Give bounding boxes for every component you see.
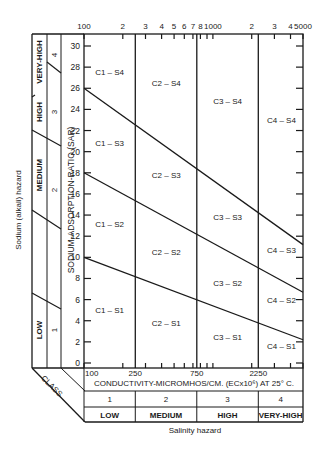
zone-label: C4 – S1 (267, 342, 296, 351)
bottom-tick-label: 250 (129, 369, 143, 378)
top-tick-label: 3 (272, 22, 277, 31)
bottom-tick-label: 100 (85, 369, 99, 378)
zone-labels: C1 – S4C1 – S3C1 – S2C1 – S1C2 – S4C2 – … (95, 68, 296, 351)
left-slant-class4 (47, 62, 61, 73)
zone-label: C3 – S1 (213, 333, 242, 342)
sar-tick-label: 6 (75, 295, 80, 305)
sar-tick-label: 4 (75, 316, 80, 326)
salinity-class-number: 4 (278, 395, 283, 404)
sar-tick-label: 24 (71, 104, 81, 114)
sar-tick-label: 30 (71, 41, 81, 51)
salinity-class-number: 1 (107, 395, 112, 404)
zone-label: C4 – S2 (267, 296, 296, 305)
sar-axis-title: SODIUM-ADSORPTION-RATIO (SAR) (66, 126, 76, 273)
zone-label: C1 – S3 (95, 139, 124, 148)
sodium-boundary-line (84, 173, 303, 292)
sodium-hazard-title: Sodium (alkali) hazard (14, 170, 23, 250)
sar-tick-label: 26 (71, 83, 81, 93)
salinity-class-name: MEDIUM (150, 411, 183, 420)
boundary-lines (84, 34, 303, 368)
zone-label: C3 – S2 (213, 279, 242, 288)
zone-label: C1 – S2 (95, 220, 124, 229)
conductivity-axis-title: CONDUCTIVITY-MICROMHOS/CM. (ECx10⁶) AT 2… (94, 379, 294, 388)
top-tick-label: 4 (159, 22, 164, 31)
top-tick-label: 5 (172, 22, 177, 31)
sodium-class-number: 3 (50, 109, 59, 114)
sodium-class-name: VERY-HIGH (35, 40, 44, 84)
salinity-sodium-diagram: 0246810121416182022242628301002345678100… (0, 0, 320, 451)
top-tick-label: 7 (191, 22, 196, 31)
top-tick-label: 1000 (204, 22, 222, 31)
zone-label: C1 – S1 (95, 306, 124, 315)
sar-tick-label: 8 (75, 273, 80, 283)
zone-label: C3 – S4 (213, 97, 242, 106)
salinity-class-name: HIGH (218, 411, 238, 420)
bottom-tick-label: 2250 (249, 369, 267, 378)
zone-label: C2 – S3 (152, 171, 181, 180)
sodium-class-number: 2 (50, 187, 59, 192)
corner-diagonal-inner (61, 368, 85, 391)
sodium-class-number: 4 (50, 52, 59, 57)
sodium-class-number: 1 (50, 327, 59, 332)
salinity-class-name: VERY-HIGH (259, 411, 303, 420)
top-tick-label: 6 (182, 22, 187, 31)
sodium-class-name: MEDIUM (35, 158, 44, 191)
salinity-hazard-title: Salinity hazard (169, 426, 221, 435)
zone-label: C2 – S2 (152, 248, 181, 257)
sar-tick-label: 28 (71, 62, 81, 72)
zone-label: C4 – S4 (267, 116, 296, 125)
top-tick-label: 4 (288, 22, 293, 31)
top-tick-label: 2 (249, 22, 254, 31)
sar-tick-label: 0 (75, 358, 80, 368)
zone-label: C2 – S1 (152, 319, 181, 328)
sodium-class-name: LOW (35, 320, 44, 339)
zone-label: C1 – S4 (95, 68, 124, 77)
salinity-class-number: 2 (164, 395, 169, 404)
top-tick-label: 2 (121, 22, 126, 31)
sar-tick-label: 2 (75, 337, 80, 347)
zone-label: C3 – S3 (213, 213, 242, 222)
top-tick-label: 5000 (294, 22, 312, 31)
zone-label: C2 – S4 (152, 79, 181, 88)
top-tick-label: 3 (143, 22, 148, 31)
salinity-class-number: 3 (225, 395, 230, 404)
class-label: CLASS (39, 374, 64, 399)
top-tick-label: 100 (77, 22, 91, 31)
top-tick-label: 8 (198, 22, 203, 31)
salinity-class-name: LOW (100, 411, 119, 420)
plot-border (84, 34, 303, 368)
sodium-class-name: HIGH (35, 102, 44, 122)
zone-label: C4 – S3 (267, 246, 296, 255)
bottom-tick-label: 750 (190, 369, 204, 378)
